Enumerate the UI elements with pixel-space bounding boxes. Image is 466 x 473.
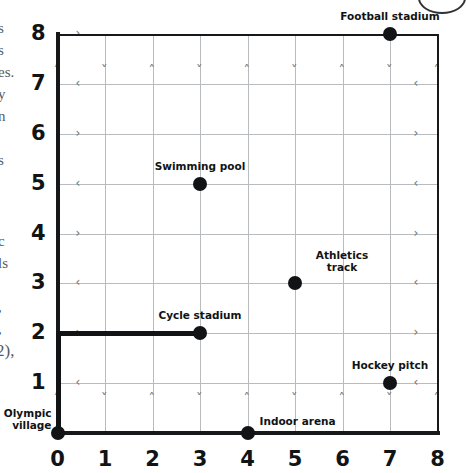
grid-scan-mark: › xyxy=(414,326,419,338)
margin-text-fragment: ls xyxy=(0,255,8,272)
margin-text-fragment: s xyxy=(0,42,4,59)
grid-scan-mark: ‹ xyxy=(414,77,419,89)
grid-scan-mark: ‹ xyxy=(76,376,81,388)
data-point-label: Olympic village xyxy=(0,408,52,432)
gridline-horizontal xyxy=(58,134,438,135)
data-point[interactable] xyxy=(51,426,65,440)
y-axis-tick-label: 7 xyxy=(20,73,46,94)
margin-text-fragment: s xyxy=(0,20,4,37)
grid-scan-mark: ˅ xyxy=(386,63,393,76)
grid-scan-mark: ‹ xyxy=(76,177,81,189)
data-point[interactable] xyxy=(383,27,397,41)
x-axis-tick-label: 3 xyxy=(187,449,213,470)
grid-scan-mark: ˅ xyxy=(101,63,108,76)
x-axis-tick-label: 6 xyxy=(330,449,356,470)
grid-scan-mark: ˅ xyxy=(196,391,203,404)
margin-text-fragment: es. xyxy=(0,64,14,81)
margin-text-fragment: 2), xyxy=(0,341,14,361)
data-point-label: Athletics track xyxy=(307,250,377,274)
grid-scan-mark: ˅ xyxy=(386,391,393,404)
grid-scan-mark: ˄ xyxy=(149,391,156,404)
y-axis-tick-label: 6 xyxy=(20,123,46,144)
x-axis-tick-label: 4 xyxy=(235,449,261,470)
grid-scan-mark: ˄ xyxy=(149,63,156,76)
grid-scan-mark: ˄ xyxy=(339,63,346,76)
margin-text-fragment: , xyxy=(0,299,2,316)
data-point[interactable] xyxy=(193,177,207,191)
grid-scan-mark: › xyxy=(76,27,81,39)
grid-scan-mark: ˄ xyxy=(244,63,251,76)
data-point-label: Hockey pitch xyxy=(330,360,450,372)
grid-scan-mark: ‹ xyxy=(414,177,419,189)
x-axis-tick-label: 0 xyxy=(45,449,71,470)
route-segment xyxy=(56,333,61,433)
gridline-horizontal xyxy=(58,184,438,185)
grid-scan-mark: ˄ xyxy=(339,391,346,404)
grid-scan-mark: › xyxy=(76,127,81,139)
grid-scan-mark: ˄ xyxy=(244,391,251,404)
grid-scan-mark: ‹ xyxy=(414,376,419,388)
y-axis-tick-label: 4 xyxy=(20,223,46,244)
gridline-horizontal xyxy=(58,84,438,85)
y-axis-tick-label: 3 xyxy=(20,272,46,293)
grid-scan-mark: ‹ xyxy=(414,276,419,288)
grid-scan-mark: › xyxy=(76,227,81,239)
y-axis-tick-label: 1 xyxy=(20,372,46,393)
data-point-label: Football stadium xyxy=(330,11,450,23)
gridline-horizontal xyxy=(58,383,438,384)
gridline-horizontal xyxy=(58,234,438,235)
y-axis-tick-label: 8 xyxy=(20,23,46,44)
x-axis-tick-label: 1 xyxy=(92,449,118,470)
x-axis-tick-label: 5 xyxy=(282,449,308,470)
margin-text-fragment: , xyxy=(0,321,2,338)
data-point[interactable] xyxy=(193,326,207,340)
data-point-label: Cycle stadium xyxy=(140,310,260,322)
route-segment xyxy=(58,331,201,336)
margin-text-fragment: n xyxy=(0,108,6,125)
margin-text-fragment: c xyxy=(0,233,5,250)
x-axis-tick-label: 7 xyxy=(377,449,403,470)
data-point-label: Indoor arena xyxy=(260,416,340,428)
grid-scan-mark: ‹ xyxy=(76,77,81,89)
grid-scan-mark: ˅ xyxy=(291,391,298,404)
plot-border-top xyxy=(58,34,438,36)
x-axis-tick-label: 2 xyxy=(140,449,166,470)
data-point[interactable] xyxy=(241,426,255,440)
x-axis-tick-label: 8 xyxy=(425,449,451,470)
margin-text-fragment: s xyxy=(0,152,4,169)
data-point[interactable] xyxy=(288,276,302,290)
gridline-horizontal xyxy=(58,283,438,284)
data-point[interactable] xyxy=(383,376,397,390)
grid-scan-mark: › xyxy=(414,127,419,139)
grid-scan-mark: ˅ xyxy=(291,63,298,76)
grid-scan-mark: › xyxy=(414,227,419,239)
data-point-label: Swimming pool xyxy=(140,161,260,173)
y-axis-tick-label: 2 xyxy=(20,322,46,343)
plot-border-right xyxy=(437,34,439,433)
grid-scan-mark: ˅ xyxy=(101,391,108,404)
grid-scan-mark: ˅ xyxy=(196,63,203,76)
y-axis-tick-label: 5 xyxy=(20,173,46,194)
grid-scan-mark: ‹ xyxy=(76,276,81,288)
margin-text-fragment: y xyxy=(0,86,6,103)
